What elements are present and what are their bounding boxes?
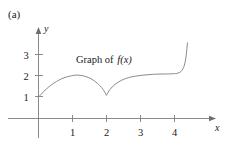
y-tick-label: 1 [23, 92, 28, 103]
y-tick-group: 1 2 3 [23, 50, 43, 103]
x-axis-label: x [214, 122, 220, 133]
x-tick-label: 2 [104, 127, 109, 138]
y-tick-label: 3 [23, 50, 28, 61]
x-tick-label: 3 [138, 127, 143, 138]
x-tick-label: 4 [172, 127, 178, 138]
x-axis-arrow-icon [209, 116, 216, 122]
curve-annotation-prefix: Graph of [76, 54, 116, 65]
x-tick-label: 1 [70, 127, 75, 138]
function-curve [39, 43, 188, 97]
y-axis-label: y [43, 23, 49, 34]
panel-label: (a) [8, 8, 21, 21]
y-axis-arrow-icon [36, 27, 42, 34]
figure-panel: (a) y x 1 2 3 1 [0, 0, 228, 150]
axes-group: y x [8, 23, 220, 138]
y-tick-label: 2 [23, 71, 28, 82]
curve-annotation-function: f(x) [117, 54, 132, 66]
function-graph: (a) y x 1 2 3 1 [0, 0, 228, 150]
curve-annotation: Graph of f(x) [76, 54, 132, 66]
